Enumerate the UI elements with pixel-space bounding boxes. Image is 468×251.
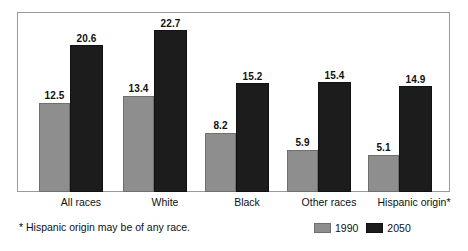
axis-label-white: White xyxy=(123,196,207,209)
bar-hispanic-origin-2050[interactable]: 14.9 xyxy=(399,86,432,192)
bar-group-black: 8.2 15.2 xyxy=(205,13,289,192)
bar-value-other-races-1990: 5.9 xyxy=(295,137,309,148)
bar-all-races-1990[interactable]: 12.5 xyxy=(39,103,70,192)
chart-legend: 1990 2050 xyxy=(314,222,411,234)
chart-plot-area: 12.5 20.6 13.4 22.7 8.2 15.2 xyxy=(18,13,449,192)
legend-item-1990[interactable]: 1990 xyxy=(314,222,358,234)
chart-footnote: * Hispanic origin may be of any race. xyxy=(19,220,190,234)
axis-label-hispanic-origin: Hispanic origin* xyxy=(368,196,460,209)
chart-root: 12.5 20.6 13.4 22.7 8.2 15.2 xyxy=(0,0,468,251)
bar-all-races-2050[interactable]: 20.6 xyxy=(70,45,103,192)
bar-value-all-races-2050: 20.6 xyxy=(77,33,97,44)
bar-value-black-1990: 8.2 xyxy=(213,120,227,131)
bar-group-other-races: 5.9 15.4 xyxy=(287,13,371,192)
bar-value-white-2050: 22.7 xyxy=(161,18,181,29)
legend-label-2050: 2050 xyxy=(387,222,410,234)
bar-group-hispanic-origin: 5.1 14.9 xyxy=(368,13,452,192)
bar-group-all-races: 12.5 20.6 xyxy=(39,13,123,192)
bar-value-white-1990: 13.4 xyxy=(129,83,149,94)
bar-black-1990[interactable]: 8.2 xyxy=(205,133,236,192)
bar-value-all-races-1990: 12.5 xyxy=(45,90,65,101)
legend-swatch-1990-icon xyxy=(314,223,331,233)
bar-value-hispanic-origin-2050: 14.9 xyxy=(406,74,426,85)
bar-hispanic-origin-1990[interactable]: 5.1 xyxy=(368,155,399,192)
bar-white-1990[interactable]: 13.4 xyxy=(123,96,154,192)
legend-label-1990: 1990 xyxy=(335,222,358,234)
bar-white-2050[interactable]: 22.7 xyxy=(154,30,187,192)
bar-value-other-races-2050: 15.4 xyxy=(325,70,345,81)
bar-other-races-1990[interactable]: 5.9 xyxy=(287,150,318,192)
legend-item-2050[interactable]: 2050 xyxy=(366,222,410,234)
bar-black-2050[interactable]: 15.2 xyxy=(236,83,269,192)
bar-value-black-2050: 15.2 xyxy=(243,71,263,82)
bar-value-hispanic-origin-1990: 5.1 xyxy=(376,142,390,153)
axis-label-all-races: All races xyxy=(39,196,123,209)
bar-group-white: 13.4 22.7 xyxy=(123,13,207,192)
axis-label-black: Black xyxy=(205,196,289,209)
bar-other-races-2050[interactable]: 15.4 xyxy=(318,82,351,192)
axis-label-other-races: Other races xyxy=(287,196,371,209)
legend-swatch-2050-icon xyxy=(366,223,383,233)
